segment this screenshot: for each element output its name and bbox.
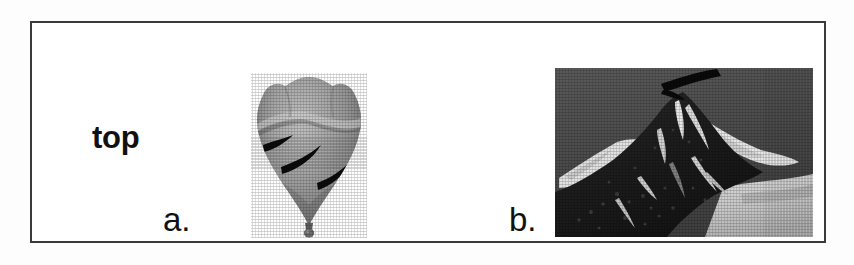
balloon-image-svg — [251, 73, 367, 238]
figure-border-frame: top a. b. — [30, 21, 826, 243]
balloon-envelope — [251, 73, 367, 238]
figure-canvas: top a. b. — [0, 0, 854, 265]
balloon-nozzle-highlight — [305, 230, 309, 233]
mountain-photograph — [555, 68, 813, 237]
balloon-nozzle-bead — [304, 228, 314, 237]
panel-a-label: a. — [163, 203, 191, 236]
orientation-label-top: top — [92, 122, 140, 153]
panel-b-label: b. — [509, 203, 537, 236]
balloon-photograph — [251, 73, 367, 238]
mountain-image-svg — [555, 68, 813, 237]
